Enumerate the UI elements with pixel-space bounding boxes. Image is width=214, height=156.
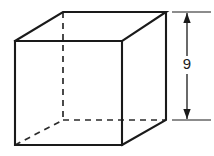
arrow-up-icon	[183, 13, 190, 23]
front-face-outline	[15, 41, 122, 145]
hidden-edges-group	[15, 12, 166, 145]
dimension-label: 9	[183, 55, 191, 72]
right-face-outline	[122, 12, 166, 145]
cube-diagram: 9	[0, 0, 214, 156]
solid-edges-group	[15, 12, 166, 145]
top-face-outline	[15, 12, 166, 41]
arrow-down-icon	[183, 109, 190, 119]
figure-container: 9	[0, 0, 214, 156]
dimension-annotation-group: 9	[172, 12, 211, 120]
hidden-edge-bottom-left-diagonal	[15, 120, 63, 145]
